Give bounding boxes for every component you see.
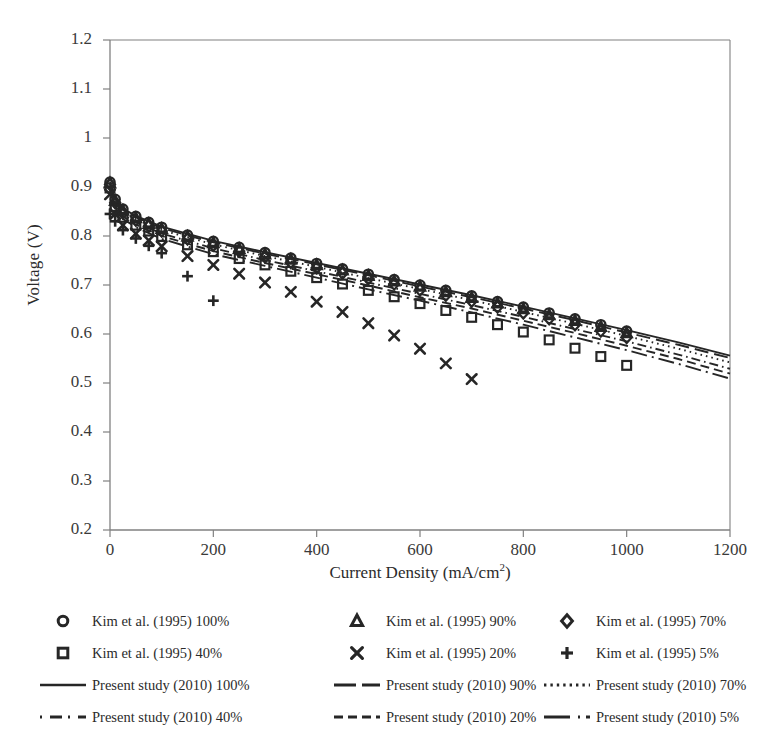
marker-square: [622, 361, 631, 370]
plus-marker-icon: [540, 642, 594, 664]
legend-item-label: Present study (2010) 5%: [594, 709, 739, 726]
x-axis-title-tail: ): [505, 563, 511, 582]
y-tick-label: 0.9: [32, 176, 92, 196]
legend-item-label: Present study (2010) 90%: [384, 677, 536, 694]
longdashdot-line-icon: [540, 706, 594, 728]
y-axis-title: Voltage (V): [24, 195, 44, 335]
figure-root: Voltage (V) Current Density (mA/cm2) 1.2…: [0, 0, 769, 756]
y-tick-label: 1: [32, 127, 92, 147]
diamond-marker-icon: [540, 610, 594, 632]
x-tick-label: 600: [380, 540, 460, 560]
y-tick-label: 1.2: [32, 29, 92, 49]
legend-item-label: Kim et al. (1995) 5%: [594, 645, 719, 662]
x-tick-label: 1200: [690, 540, 769, 560]
legend-item[interactable]: Present study (2010) 70%: [540, 672, 746, 698]
legend-item[interactable]: Present study (2010) 20%: [330, 704, 536, 730]
legend-item[interactable]: Kim et al. (1995) 20%: [330, 640, 516, 666]
dashdot-line-icon: [36, 706, 90, 728]
legend-item-label: Kim et al. (1995) 70%: [594, 613, 726, 630]
legend-item[interactable]: Kim et al. (1995) 40%: [36, 640, 222, 666]
dashed-line-icon: [330, 706, 384, 728]
polarization-curve-svg: [0, 0, 769, 600]
solid-line-glyph: [38, 675, 88, 695]
y-tick-label: 1.1: [32, 78, 92, 98]
y-tick-label: 0.5: [32, 372, 92, 392]
x-tick-label: 1000: [587, 540, 667, 560]
circle-marker-glyph: [38, 611, 88, 631]
x-tick-label: 200: [173, 540, 253, 560]
x-tick-label: 400: [277, 540, 357, 560]
solid-line-icon: [36, 674, 90, 696]
x-tick-label: 800: [483, 540, 563, 560]
longdashdot-line-glyph: [542, 707, 592, 727]
x-tick-label: 0: [70, 540, 150, 560]
legend-item-label: Kim et al. (1995) 40%: [90, 645, 222, 662]
legend-item[interactable]: Present study (2010) 100%: [36, 672, 249, 698]
legend-item-label: Present study (2010) 20%: [384, 709, 536, 726]
marker-square: [467, 313, 476, 322]
legend-item[interactable]: Present study (2010) 5%: [540, 704, 739, 730]
legend-item[interactable]: Present study (2010) 40%: [36, 704, 242, 730]
legend-item-label: Present study (2010) 70%: [594, 677, 746, 694]
diamond-marker-glyph: [542, 611, 592, 631]
square-marker-glyph: [38, 643, 88, 663]
series-line: [110, 186, 730, 369]
dashed-line-glyph: [332, 707, 382, 727]
legend-item-label: Kim et al. (1995) 90%: [384, 613, 516, 630]
legend-item[interactable]: Kim et al. (1995) 5%: [540, 640, 719, 666]
legend-item-label: Present study (2010) 100%: [90, 677, 249, 694]
marker-square: [571, 344, 580, 353]
marker-square: [493, 320, 502, 329]
x-axis-title-main: Current Density (mA/cm: [329, 563, 499, 582]
x-axis-title: Current Density (mA/cm2): [110, 561, 730, 583]
legend-item[interactable]: Kim et al. (1995) 70%: [540, 608, 726, 634]
legend-item-label: Kim et al. (1995) 100%: [90, 613, 229, 630]
triangle-marker-icon: [330, 610, 384, 632]
cross-marker-glyph: [332, 643, 382, 663]
y-tick-label: 0.8: [32, 225, 92, 245]
y-tick-label: 0.7: [32, 274, 92, 294]
y-tick-label: 0.2: [32, 519, 92, 539]
legend-item[interactable]: Present study (2010) 90%: [330, 672, 536, 698]
chart-plot-area: Voltage (V) Current Density (mA/cm2) 1.2…: [0, 0, 769, 600]
dotted-line-glyph: [542, 675, 592, 695]
legend-item-label: Present study (2010) 40%: [90, 709, 242, 726]
marker-square: [519, 328, 528, 337]
chart-legend: Kim et al. (1995) 100%Kim et al. (1995) …: [0, 600, 769, 756]
triangle-marker-glyph: [332, 611, 382, 631]
y-tick-label: 0.6: [32, 323, 92, 343]
dashdot-line-glyph: [38, 707, 88, 727]
circle-marker-icon: [36, 610, 90, 632]
series-line: [110, 182, 730, 355]
square-marker-icon: [36, 642, 90, 664]
marker-square: [545, 335, 554, 344]
legend-item[interactable]: Kim et al. (1995) 100%: [36, 608, 229, 634]
legend-item[interactable]: Kim et al. (1995) 90%: [330, 608, 516, 634]
marker-square: [596, 352, 605, 361]
legend-item-label: Kim et al. (1995) 20%: [384, 645, 516, 662]
y-tick-label: 0.3: [32, 470, 92, 490]
dotted-line-icon: [540, 674, 594, 696]
longdash-line-glyph: [332, 675, 382, 695]
longdash-line-icon: [330, 674, 384, 696]
cross-marker-icon: [330, 642, 384, 664]
y-tick-label: 0.4: [32, 421, 92, 441]
plus-marker-glyph: [542, 643, 592, 663]
